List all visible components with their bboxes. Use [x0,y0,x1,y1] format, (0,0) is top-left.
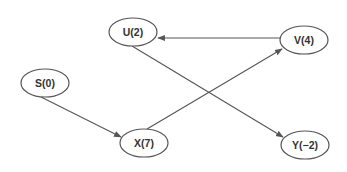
node-label: S(0) [35,77,55,89]
node-x: X(7) [120,129,168,157]
node-label: V(4) [294,34,314,46]
edge-u-to-y [132,46,283,137]
edge-s-to-x [41,97,121,137]
node-v: V(4) [280,26,328,54]
edge-x-to-v [147,49,282,129]
node-u: U(2) [109,18,157,46]
edges-layer [41,38,283,137]
nodes-layer: U(2)V(4)S(0)X(7)Y(−2) [21,18,329,159]
edge-arrow-line [147,49,282,129]
node-label: Y(−2) [292,139,318,151]
edge-arrow-line [41,97,121,137]
edge-arrow-line [132,46,283,137]
node-label: X(7) [134,137,154,149]
directed-graph: U(2)V(4)S(0)X(7)Y(−2) [0,0,347,172]
node-y: Y(−2) [281,131,329,159]
node-s: S(0) [21,69,69,97]
node-label: U(2) [123,26,143,38]
